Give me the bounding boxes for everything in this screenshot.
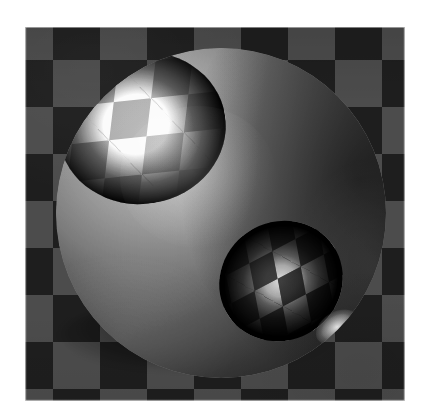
figure-alt-text: Shaded sphere with checkerboard-patterne…	[0, 0, 1, 1]
rendered-image-plate	[25, 27, 405, 401]
primary-highlight-glow	[120, 106, 276, 248]
shaded-sphere	[56, 48, 386, 378]
figure-container: Shaded sphere with checkerboard-patterne…	[0, 0, 427, 415]
